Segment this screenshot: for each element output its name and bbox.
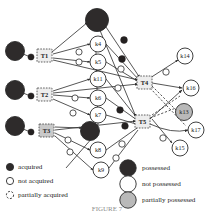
not-acquired-marker bbox=[160, 135, 166, 141]
task-node-T1[interactable]: T1 bbox=[37, 49, 52, 62]
knowledge-node-k16-label: k16 bbox=[186, 84, 195, 91]
knowledge-node-k8-label: k8 bbox=[95, 146, 101, 153]
knowledge-node-k15-label: k15 bbox=[175, 144, 184, 151]
legend-possessed-icon bbox=[120, 160, 136, 176]
not-acquired-marker bbox=[76, 59, 82, 65]
legend-acquired-icon bbox=[6, 163, 13, 170]
task-node-T4-label: T4 bbox=[141, 79, 149, 86]
task-node-T2[interactable]: T2 bbox=[37, 88, 52, 101]
acquired-marker bbox=[28, 93, 34, 99]
acquired-marker bbox=[28, 54, 34, 60]
knowledge-node-k13-label: k13 bbox=[179, 108, 188, 115]
knowledge-node-k17-label: k17 bbox=[191, 126, 200, 133]
not-acquired-marker bbox=[119, 141, 125, 147]
task-node-T1-label: T1 bbox=[41, 52, 48, 59]
possession-legend: possessed not possessed partially posses… bbox=[120, 160, 196, 208]
legend-not-possessed-label: not possessed bbox=[142, 180, 181, 188]
task-node-T5-label: T5 bbox=[139, 118, 146, 125]
legend-possessed-label: possessed bbox=[142, 164, 170, 172]
legend-partially-acquired-icon bbox=[6, 191, 13, 198]
knowledge-node-k13[interactable]: k13 bbox=[176, 104, 193, 121]
acquired-marker bbox=[119, 56, 126, 63]
acquired-marker bbox=[122, 123, 129, 130]
knowledge-node-k11[interactable]: k11 bbox=[90, 71, 106, 87]
task-node-T4[interactable]: T4 bbox=[137, 76, 152, 89]
not-acquired-marker bbox=[70, 110, 76, 116]
knowledge-node-k5[interactable]: k5 bbox=[90, 54, 106, 70]
not-acquired-marker bbox=[113, 155, 119, 161]
not-acquired-marker bbox=[72, 95, 78, 101]
not-acquired-marker bbox=[118, 66, 124, 72]
knowledge-node-k4-label: k4 bbox=[95, 40, 101, 47]
knowledge-node-k15[interactable]: k15 bbox=[172, 140, 188, 156]
figure-container: T1 T2 T3 T4 T5 k4 k5 k11 k6 k7 k8 bbox=[0, 0, 214, 213]
task-node-T2-label: T2 bbox=[41, 91, 48, 98]
knowledge-node-k7[interactable]: k7 bbox=[90, 107, 106, 123]
not-acquired-marker bbox=[65, 137, 71, 143]
knowledge-node-k9-label: k9 bbox=[98, 166, 104, 173]
not-acquired-marker bbox=[76, 49, 82, 55]
knowledge-node-k8[interactable]: k8 bbox=[90, 142, 106, 158]
acquired-marker bbox=[117, 107, 124, 114]
knowledge-node-k14[interactable]: k14 bbox=[177, 48, 193, 64]
legend-not-acquired-icon bbox=[6, 177, 13, 184]
task-node-T5[interactable]: T5 bbox=[135, 115, 150, 128]
possessed-node-left-2[interactable] bbox=[6, 81, 25, 100]
possessed-node-mid[interactable] bbox=[81, 122, 100, 141]
legend-acquired-label: acquired bbox=[18, 163, 43, 171]
knowledge-node-k17[interactable]: k17 bbox=[188, 122, 204, 138]
knowledge-node-k6-label: k6 bbox=[95, 94, 101, 101]
legend-partially-acquired-label: partially acquired bbox=[18, 191, 68, 199]
knowledge-node-k6[interactable]: k6 bbox=[90, 90, 106, 106]
knowledge-node-k9[interactable]: k9 bbox=[93, 162, 109, 178]
task-node-T3-label: T3 bbox=[43, 127, 50, 134]
possessed-node-left-1[interactable] bbox=[6, 42, 25, 61]
legend-partially-possessed-label: partially possessed bbox=[142, 196, 196, 204]
knowledge-node-k7-label: k7 bbox=[95, 111, 101, 118]
acquired-marker bbox=[121, 37, 128, 44]
knowledge-node-k14-label: k14 bbox=[180, 52, 189, 59]
not-acquired-marker bbox=[115, 85, 121, 91]
figure-caption: FIGURE 7 bbox=[92, 205, 123, 213]
possessed-node-top[interactable] bbox=[86, 9, 109, 32]
task-node-T3[interactable]: T3 bbox=[39, 124, 54, 137]
graph-canvas: T1 T2 T3 T4 T5 k4 k5 k11 k6 k7 k8 bbox=[0, 0, 214, 213]
knowledge-node-k5-label: k5 bbox=[95, 58, 101, 65]
not-acquired-marker bbox=[163, 69, 169, 75]
knowledge-node-k11-label: k11 bbox=[93, 75, 102, 82]
legend-not-possessed-icon bbox=[120, 176, 136, 192]
acquisition-legend: acquired not acquired partially acquired bbox=[6, 163, 68, 199]
not-acquired-marker bbox=[67, 149, 73, 155]
possessed-node-left-3[interactable] bbox=[6, 117, 25, 136]
legend-not-acquired-label: not acquired bbox=[18, 177, 54, 185]
knowledge-node-k4[interactable]: k4 bbox=[90, 36, 106, 52]
acquired-marker bbox=[28, 129, 34, 135]
knowledge-node-k16[interactable]: k16 bbox=[183, 80, 199, 96]
